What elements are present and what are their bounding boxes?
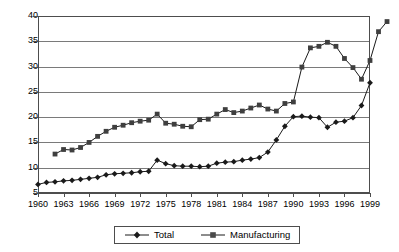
data-point-diamond: [214, 160, 220, 166]
x-tick-label: 1996: [330, 199, 358, 209]
x-tick-mark: [191, 193, 192, 197]
data-point-diamond: [163, 161, 169, 167]
data-point-square: [70, 148, 75, 153]
x-tick-label: 1993: [305, 199, 333, 209]
series-total: [35, 80, 373, 187]
x-tick-mark: [38, 193, 39, 197]
data-point-square: [112, 125, 117, 130]
data-point-diamond: [78, 176, 84, 182]
x-tick-mark: [293, 193, 294, 197]
data-point-square: [368, 58, 373, 63]
x-tick-label: 1969: [101, 199, 129, 209]
data-point-diamond: [205, 163, 211, 169]
x-tick-mark: [319, 193, 320, 197]
data-point-square: [129, 120, 134, 125]
series-manufacturing: [53, 19, 390, 156]
data-point-square: [53, 152, 58, 157]
x-tick-label: 1990: [279, 199, 307, 209]
legend-marker-square-icon: [200, 230, 226, 240]
data-point-square: [342, 56, 347, 61]
data-point-diamond: [171, 163, 177, 169]
x-tick-label: 1966: [75, 199, 103, 209]
data-point-diamond: [239, 157, 245, 163]
data-point-diamond: [103, 172, 109, 178]
data-point-diamond: [86, 175, 92, 181]
data-point-diamond: [120, 170, 126, 176]
data-point-square: [95, 134, 100, 139]
legend-entry-manufacturing: Manufacturing: [200, 230, 290, 240]
data-point-square: [359, 77, 364, 82]
x-tick-label: 1978: [177, 199, 205, 209]
legend-label-manufacturing: Manufacturing: [230, 230, 290, 240]
data-point-square: [214, 112, 219, 117]
x-tick-mark: [268, 193, 269, 197]
x-tick-label: 1984: [228, 199, 256, 209]
data-point-diamond: [180, 163, 186, 169]
data-point-square: [282, 101, 287, 106]
data-point-square: [231, 110, 236, 115]
data-point-diamond: [308, 114, 314, 120]
data-point-square: [61, 147, 66, 152]
x-tick-label: 1981: [203, 199, 231, 209]
data-point-diamond: [197, 164, 203, 170]
data-point-square: [351, 65, 356, 70]
data-point-square: [274, 109, 279, 114]
x-tick-mark: [344, 193, 345, 197]
data-point-diamond: [188, 163, 194, 169]
data-point-square: [308, 45, 313, 50]
data-point-square: [172, 122, 177, 127]
data-point-diamond: [367, 80, 373, 86]
x-tick-label: 1999: [356, 199, 384, 209]
data-point-square: [146, 118, 151, 123]
data-point-square: [87, 140, 92, 145]
data-point-square: [248, 106, 253, 111]
data-point-square: [155, 112, 160, 117]
data-point-square: [180, 124, 185, 129]
data-point-square: [291, 100, 296, 105]
data-point-square: [197, 117, 202, 122]
x-tick-mark: [64, 193, 65, 197]
data-point-square: [78, 145, 83, 150]
x-tick-mark: [166, 193, 167, 197]
data-point-diamond: [137, 169, 143, 175]
data-point-square: [121, 123, 126, 128]
line-chart: 510152025303540 Total Manufacturing 1960…: [0, 0, 399, 252]
x-tick-mark: [370, 193, 371, 197]
legend-marker-diamond-icon: [124, 230, 150, 240]
data-point-diamond: [333, 119, 339, 125]
x-tick-label: 1960: [24, 199, 52, 209]
data-point-diamond: [342, 118, 348, 124]
data-point-diamond: [95, 174, 101, 180]
data-point-diamond: [256, 155, 262, 161]
x-tick-mark: [140, 193, 141, 197]
x-tick-label: 1975: [152, 199, 180, 209]
data-point-diamond: [248, 156, 254, 162]
series-layer: [0, 0, 399, 252]
data-point-diamond: [35, 182, 41, 188]
data-point-diamond: [129, 170, 135, 176]
data-point-square: [385, 19, 390, 24]
data-point-square: [300, 65, 305, 70]
data-point-square: [163, 121, 168, 126]
legend-entry-total: Total: [124, 230, 174, 240]
x-tick-mark: [242, 193, 243, 197]
data-point-square: [206, 117, 211, 122]
data-point-square: [189, 124, 194, 129]
x-tick-label: 1972: [126, 199, 154, 209]
data-point-square: [265, 107, 270, 112]
data-point-diamond: [44, 179, 50, 185]
data-point-square: [334, 44, 339, 49]
data-point-square: [138, 119, 143, 124]
data-point-square: [223, 107, 228, 112]
x-tick-label: 1963: [50, 199, 78, 209]
data-point-diamond: [299, 113, 305, 119]
data-point-diamond: [52, 179, 58, 185]
x-tick-mark: [217, 193, 218, 197]
data-point-square: [240, 109, 245, 114]
series-line: [55, 22, 387, 155]
data-point-square: [325, 40, 330, 45]
data-point-diamond: [222, 159, 228, 165]
data-point-diamond: [69, 177, 75, 183]
x-tick-mark: [115, 193, 116, 197]
data-point-square: [317, 44, 322, 49]
